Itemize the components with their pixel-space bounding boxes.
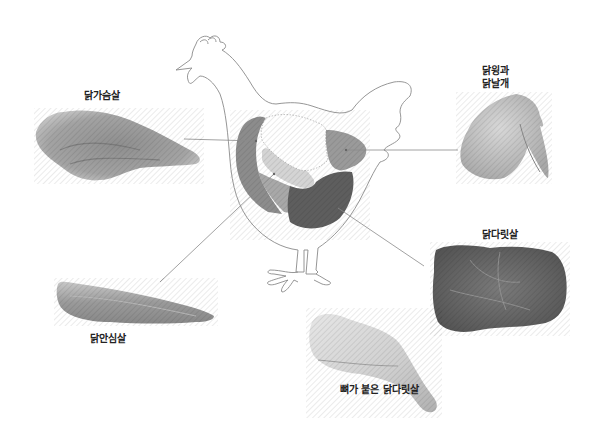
leader-dot-wing [345, 149, 347, 151]
photo-breast [34, 108, 204, 184]
label-breast: 닭가슴살 [84, 89, 120, 102]
chicken-cuts-diagram: 닭가슴살 닭윙과 닭날개 닭안심살 닭다릿살 뼈가 붙은 닭다릿살 [0, 0, 596, 436]
photo-tenderloin [54, 278, 218, 326]
leader-dot-tenderloin [273, 173, 275, 175]
photo-drumstick [306, 308, 442, 418]
photo-wing [456, 92, 552, 184]
leader-line-thigh [338, 208, 424, 266]
chicken-comb [200, 38, 216, 44]
chicken-foot-left [267, 270, 298, 292]
label-wing: 닭윙과 닭날개 [482, 64, 509, 90]
leader-line-tenderloin [160, 174, 274, 282]
leader-dot-breast [255, 140, 257, 142]
photo-thigh [430, 242, 570, 336]
chicken-foot-right [314, 274, 331, 285]
label-drumstick: 뼈가 붙은 닭다릿살 [340, 383, 419, 396]
label-tenderloin: 닭안심살 [90, 332, 126, 345]
label-wing-line2: 닭날개 [482, 77, 509, 90]
label-wing-line1: 닭윙과 [482, 64, 509, 77]
chicken-regions [230, 110, 370, 240]
label-thigh: 닭다릿살 [482, 228, 518, 241]
